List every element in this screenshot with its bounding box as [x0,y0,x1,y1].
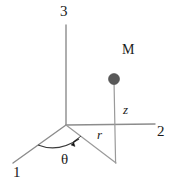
mass-point-label: M [122,43,134,57]
height-line-z [114,80,116,163]
axis-3-label: 3 [60,4,68,19]
height-coordinate-label: z [123,103,128,116]
axis-1-label: 1 [13,165,21,180]
axis-1-line [13,125,66,163]
axis-2-label: 2 [157,124,165,139]
angle-coordinate-label: θ [61,152,68,167]
diagram-canvas [0,0,181,185]
cylindrical-coordinate-figure: 3 2 1 M z r θ [0,0,181,185]
mass-point-marker [109,74,120,85]
radial-coordinate-label: r [97,128,102,141]
axis-2-line [66,124,155,125]
